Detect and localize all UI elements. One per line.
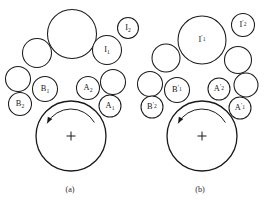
panel-b-right-idler-b [234, 73, 258, 97]
panel-b-upper-right-idler-b [225, 47, 252, 74]
panel-b: I′1I′2B′2B′1A′2A′1(b) [138, 14, 259, 195]
panel-a-upper-left-idler [23, 39, 52, 68]
panel-a-top-large-idler [48, 10, 97, 59]
panel-b-upper-left-idler-b [152, 44, 180, 72]
panel-a-left-idler [6, 67, 31, 92]
panel-a-right-idler [101, 70, 126, 95]
panel-b-left-idler-b [138, 72, 163, 97]
panel-a-caption: (a) [65, 185, 74, 194]
panel-b-caption: (b) [195, 185, 205, 194]
panel-a: B2B1A2A1I1I2(a) [6, 10, 139, 195]
circle-packing-diagram: B2B1A2A1I1I2(a)I′1I′2B′2B′1A′2A′1(b) [0, 0, 267, 203]
figure-container: B2B1A2A1I1I2(a)I′1I′2B′2B′1A′2A′1(b) [0, 0, 267, 203]
